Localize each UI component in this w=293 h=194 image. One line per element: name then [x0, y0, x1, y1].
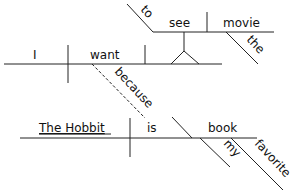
word-movie: movie: [223, 16, 260, 30]
complement-divider: [172, 117, 192, 138]
word-want: want: [90, 48, 120, 62]
word-is: is: [147, 121, 157, 135]
word-the-hobbit: The Hobbit: [38, 121, 105, 135]
word-favorite: favorite: [252, 136, 293, 179]
sentence-diagram: to see movie the I want because The Hobb…: [0, 0, 293, 194]
word-see: see: [169, 16, 190, 30]
pedestal-base: [171, 51, 199, 64]
word-book: book: [208, 121, 237, 135]
word-my: my: [221, 136, 244, 159]
word-I: I: [33, 48, 37, 62]
word-because: because: [112, 64, 156, 110]
